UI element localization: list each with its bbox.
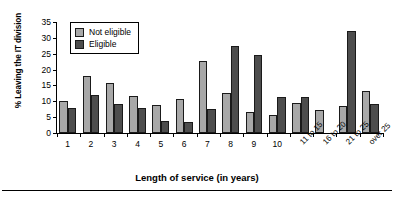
legend-swatch-eligible	[75, 40, 84, 49]
x-tick-mark	[80, 133, 81, 137]
x-tick-mark	[104, 133, 105, 137]
y-tick-label: 30	[42, 33, 51, 43]
legend-item-not-eligible: Not eligible	[75, 26, 131, 38]
bar-eligible	[231, 46, 239, 133]
bar-eligible	[91, 95, 99, 133]
bar-not-eligible	[199, 61, 207, 133]
x-tick-mark	[57, 133, 58, 137]
x-tick-mark	[243, 133, 244, 137]
x-tick-label: 8	[228, 139, 233, 149]
chart-figure: % Leaving the IT division 05101520253035…	[0, 0, 394, 197]
bar-not-eligible	[176, 99, 184, 133]
bar-group	[197, 22, 220, 133]
bar-eligible	[347, 31, 355, 133]
x-tick-mark	[127, 133, 128, 137]
x-tick-mark	[173, 133, 174, 137]
bar-not-eligible	[83, 76, 91, 133]
legend-swatch-not-eligible	[75, 28, 84, 37]
bar-not-eligible	[222, 93, 230, 133]
bar-group	[313, 22, 336, 133]
bar-group	[173, 22, 196, 133]
x-tick-mark	[290, 133, 291, 137]
chart-legend: Not eligible Eligible	[70, 22, 139, 54]
bar-eligible	[301, 97, 309, 133]
bar-group	[243, 22, 266, 133]
legend-item-eligible: Eligible	[75, 38, 131, 50]
legend-label-not-eligible: Not eligible	[89, 27, 131, 37]
bar-group	[220, 22, 243, 133]
bar-eligible	[138, 108, 146, 133]
bar-group	[150, 22, 173, 133]
x-tick-label: 6	[182, 139, 187, 149]
x-tick-mark	[197, 133, 198, 137]
bar-group	[267, 22, 290, 133]
bar-group	[290, 22, 313, 133]
bar-eligible	[68, 108, 76, 133]
y-axis-title: % Leaving the IT division	[14, 0, 23, 131]
bar-eligible	[207, 109, 215, 133]
legend-label-eligible: Eligible	[89, 39, 116, 49]
x-tick-label: 10	[272, 139, 281, 149]
bar-eligible	[254, 55, 262, 133]
bar-not-eligible	[246, 112, 254, 133]
x-tick-label: 9	[252, 139, 257, 149]
bar-not-eligible	[292, 103, 300, 133]
x-tick-mark	[150, 133, 151, 137]
y-tick-label: 0	[46, 128, 51, 138]
y-tick-label: 15	[42, 80, 51, 90]
bar-eligible	[184, 122, 192, 133]
x-axis-title: Length of service (in years)	[0, 172, 394, 183]
bar-group	[336, 22, 359, 133]
x-tick-label: 5	[158, 139, 163, 149]
x-tick-mark	[267, 133, 268, 137]
y-tick-label: 5	[46, 112, 51, 122]
bar-group	[360, 22, 383, 133]
x-tick-label: 7	[205, 139, 210, 149]
bar-not-eligible	[59, 101, 67, 133]
y-tick-label: 35	[42, 17, 51, 27]
x-tick-label: 2	[89, 139, 94, 149]
x-tick-label: 4	[135, 139, 140, 149]
y-tick-label: 20	[42, 65, 51, 75]
x-tick-mark	[220, 133, 221, 137]
bar-not-eligible	[269, 115, 277, 133]
bar-eligible	[161, 121, 169, 133]
bar-not-eligible	[152, 105, 160, 133]
footer-divider	[2, 190, 392, 191]
x-tick-label: 1	[65, 139, 70, 149]
bar-not-eligible	[106, 83, 114, 133]
bar-not-eligible	[129, 96, 137, 133]
y-tick-label: 10	[42, 96, 51, 106]
y-tick-label: 25	[42, 49, 51, 59]
x-tick-label: 3	[112, 139, 117, 149]
bar-eligible	[114, 104, 122, 133]
bar-eligible	[277, 97, 285, 133]
